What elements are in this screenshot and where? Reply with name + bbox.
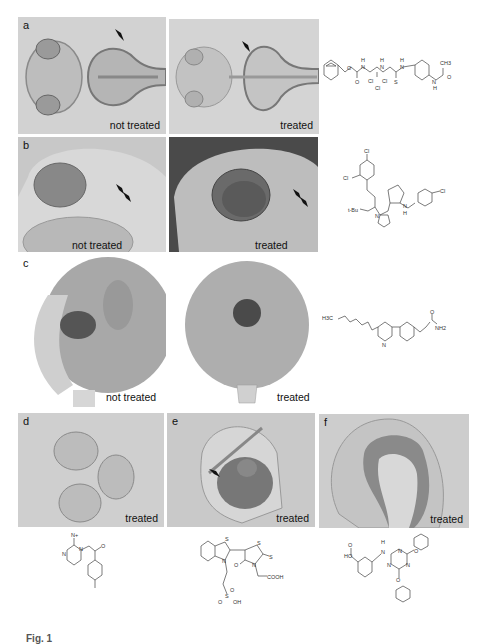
- svg-text:N: N: [398, 548, 402, 554]
- caption-treated: treated: [430, 513, 463, 525]
- svg-text:Cl: Cl: [375, 85, 380, 91]
- svg-text:Cl: Cl: [440, 188, 445, 194]
- svg-text:N: N: [79, 546, 83, 552]
- svg-text:H: H: [400, 57, 404, 63]
- svg-text:COOH: COOH: [267, 574, 284, 580]
- chemical-structure-f: HO O H N N N N O O: [336, 532, 451, 638]
- svg-text:H: H: [433, 85, 437, 91]
- panel-label-a: a: [23, 19, 29, 31]
- caption-treated: treated: [276, 512, 309, 524]
- svg-text:N: N: [403, 203, 407, 209]
- panel-d-treated: d treated: [18, 413, 164, 527]
- svg-text:H: H: [403, 210, 407, 216]
- embryo-image-b-treated: [169, 137, 318, 252]
- panel-label-d: d: [23, 415, 29, 427]
- caption-treated: treated: [125, 512, 158, 524]
- svg-text:N: N: [400, 64, 404, 70]
- svg-text:Cl: Cl: [343, 175, 348, 181]
- chemical-structure-a: O O H N H N H N Cl Cl Cl S CH3 N H O: [320, 45, 492, 105]
- svg-text:O: O: [355, 79, 360, 85]
- caption-treated: treated: [255, 239, 288, 251]
- svg-text:O: O: [234, 562, 239, 568]
- panel-b-treated: treated: [169, 137, 318, 252]
- svg-text:N: N: [381, 549, 385, 555]
- svg-text:H3C: H3C: [322, 315, 333, 321]
- chemical-structure-c: H3C N O NH2: [322, 310, 492, 355]
- embryo-image-c-not-treated: [18, 255, 166, 407]
- embryo-image-c-treated: [169, 255, 319, 407]
- svg-text:O: O: [447, 74, 452, 80]
- svg-text:O: O: [348, 542, 353, 548]
- panel-label-f: f: [324, 416, 327, 428]
- svg-text:O: O: [218, 599, 223, 605]
- embryo-image-b-not-treated: [18, 137, 166, 252]
- svg-text:t-Bu: t-Bu: [348, 207, 358, 213]
- panel-a-not-treated: a not treated: [18, 17, 166, 134]
- chemical-structure-d: N+ N N O: [55, 532, 125, 612]
- chemical-structure-e: S N S S O N COOH S O O OH: [195, 532, 305, 612]
- svg-text:Cl: Cl: [368, 78, 373, 84]
- embryo-image-d-treated: [18, 413, 164, 527]
- svg-text:O: O: [396, 577, 401, 583]
- svg-text:N+: N+: [71, 532, 78, 538]
- svg-text:O: O: [347, 65, 352, 71]
- svg-text:S: S: [269, 554, 273, 560]
- figure-caption: Fig. 1: [26, 633, 52, 644]
- caption-not-treated: not treated: [106, 391, 156, 403]
- caption-not-treated: not treated: [72, 239, 122, 251]
- svg-text:N: N: [361, 64, 365, 70]
- svg-text:N: N: [252, 562, 256, 568]
- svg-text:N: N: [222, 558, 226, 564]
- panel-e-treated: e treated: [167, 413, 315, 527]
- caption-treated: treated: [280, 119, 313, 131]
- panel-label-e: e: [172, 415, 178, 427]
- embryo-image-f-treated: [319, 414, 469, 528]
- svg-text:S: S: [257, 540, 261, 546]
- svg-text:S: S: [394, 79, 398, 85]
- panel-c-not-treated: c not treated: [18, 255, 166, 407]
- svg-text:H: H: [381, 539, 385, 545]
- svg-text:HO: HO: [344, 553, 353, 559]
- panel-b-not-treated: b not treated: [18, 137, 166, 252]
- embryo-image-a-treated: [169, 19, 319, 134]
- embryo-image-a-not-treated: [18, 17, 166, 134]
- svg-text:H: H: [380, 57, 384, 63]
- panel-c-treated: treated: [169, 255, 319, 407]
- svg-text:O: O: [430, 310, 435, 315]
- svg-text:O: O: [101, 543, 106, 549]
- svg-text:N: N: [387, 562, 391, 568]
- panel-label-c: c: [23, 257, 29, 269]
- svg-text:N: N: [406, 562, 410, 568]
- svg-text:NH2: NH2: [435, 325, 446, 331]
- svg-text:O: O: [414, 548, 419, 554]
- embryo-image-e-treated: [167, 413, 315, 527]
- svg-text:N: N: [62, 551, 66, 557]
- svg-text:CH3: CH3: [440, 60, 451, 66]
- svg-text:N: N: [375, 213, 379, 219]
- svg-text:S: S: [225, 536, 229, 542]
- svg-text:Cl: Cl: [382, 78, 387, 84]
- svg-text:O: O: [230, 587, 235, 593]
- svg-text:N: N: [380, 64, 384, 70]
- caption-not-treated: not treated: [110, 119, 160, 131]
- panel-f-treated: f treated: [319, 414, 469, 528]
- svg-text:OH: OH: [233, 599, 241, 605]
- chemical-structure-b: Cl Cl Cl t-Bu N N H: [330, 145, 460, 245]
- svg-text:Cl: Cl: [364, 148, 369, 154]
- panel-label-b: b: [23, 139, 29, 151]
- svg-text:S: S: [225, 593, 229, 599]
- panel-a-treated: treated: [169, 19, 319, 134]
- svg-text:H: H: [361, 57, 365, 63]
- caption-treated: treated: [277, 391, 310, 403]
- svg-text:N: N: [382, 342, 386, 348]
